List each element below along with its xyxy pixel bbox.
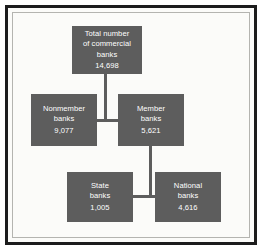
node-nonmember-banks: Nonmember banks 9,077 [31, 94, 97, 146]
node-national-banks: National banks 4,616 [155, 172, 221, 222]
node-national-label-line1: National [174, 181, 202, 191]
node-member-label-line1: Member [137, 104, 165, 114]
connector-state-to-national [130, 195, 158, 198]
node-total-label-line2: of commercial [83, 39, 131, 49]
node-member-banks: Member banks 5,621 [118, 94, 184, 146]
connector-total-to-branches [104, 74, 107, 120]
node-member-label-line2: banks [141, 114, 162, 124]
node-total-commercial-banks: Total number of commercial banks 14,698 [72, 26, 142, 74]
node-state-label-line1: State [91, 181, 109, 191]
node-total-value: 14,698 [95, 61, 119, 71]
node-nonmember-label-line2: banks [54, 114, 75, 124]
node-total-label-line1: Total number [85, 29, 130, 39]
node-nonmember-label-line1: Nonmember [43, 104, 85, 114]
node-national-label-line2: banks [178, 191, 199, 201]
node-state-value: 1,005 [90, 203, 109, 213]
diagram-canvas: Total number of commercial banks 14,698 … [0, 0, 263, 250]
node-state-banks: State banks 1,005 [67, 172, 133, 222]
connector-member-to-branches [149, 146, 152, 197]
node-total-label-line3: banks [97, 50, 118, 60]
node-nonmember-value: 9,077 [54, 126, 73, 136]
node-member-value: 5,621 [141, 126, 160, 136]
bank-structure-figure: Total number of commercial banks 14,698 … [0, 0, 263, 250]
node-national-value: 4,616 [178, 203, 197, 213]
node-state-label-line2: banks [90, 191, 111, 201]
